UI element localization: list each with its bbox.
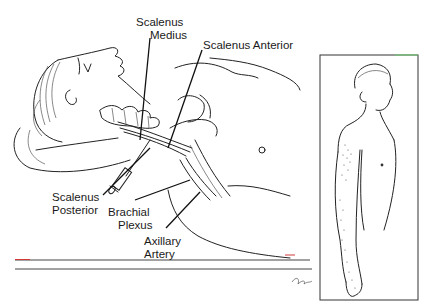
syringe-icon (108, 140, 150, 195)
label-line: Plexus (108, 219, 153, 232)
label-line: Scalenus (136, 16, 187, 29)
label-line: Axillary (144, 235, 181, 248)
label-line: Scalenus (52, 191, 99, 204)
patient-drawing (14, 48, 300, 258)
label-line: Brachial (108, 206, 153, 219)
label-axillary-artery: Axillary Artery (144, 235, 181, 261)
artist-signature (292, 278, 312, 284)
label-line: Scalenus Anterior (203, 39, 293, 51)
label-line: Posterior (52, 204, 99, 217)
label-scalenus-medius: Scalenus Medius (136, 16, 187, 42)
label-line: Medius (136, 29, 187, 42)
label-brachial-plexus: Brachial Plexus (108, 206, 153, 232)
label-line: Artery (144, 248, 181, 261)
label-scalenus-anterior: Scalenus Anterior (203, 39, 293, 52)
anatomical-illustration: Scalenus Medius Scalenus Anterior Scalen… (0, 0, 424, 306)
label-scalenus-posterior: Scalenus Posterior (52, 191, 99, 217)
inset-figure (320, 55, 418, 300)
